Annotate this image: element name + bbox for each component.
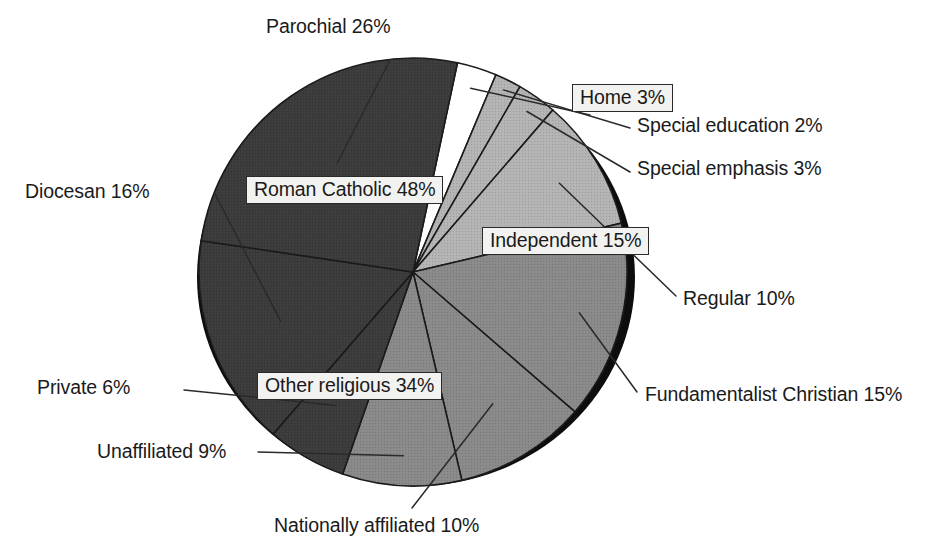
pie-chart-figure: Parochial 26% Diocesan 16% Private 6% Un…	[0, 0, 952, 559]
label-unaffiliated: Unaffiliated 9%	[97, 441, 226, 462]
label-special-emphasis: Special emphasis 3%	[637, 158, 822, 179]
label-roman-catholic: Roman Catholic 48%	[246, 176, 443, 204]
label-fundamentalist-christian: Fundamentalist Christian 15%	[645, 384, 902, 405]
label-parochial: Parochial 26%	[266, 16, 390, 37]
label-regular: Regular 10%	[683, 288, 795, 309]
label-independent: Independent 15%	[482, 227, 649, 255]
slice-texture	[201, 58, 457, 272]
label-other-religious: Other religious 34%	[257, 372, 442, 400]
label-nationally-affiliated: Nationally affiliated 10%	[274, 515, 479, 536]
label-home: Home 3%	[572, 84, 673, 112]
label-special-education: Special education 2%	[637, 115, 823, 136]
label-diocesan: Diocesan 16%	[25, 181, 150, 202]
label-private: Private 6%	[37, 377, 130, 398]
pie-slices-group	[199, 58, 627, 486]
pie-chart-svg	[0, 0, 952, 559]
